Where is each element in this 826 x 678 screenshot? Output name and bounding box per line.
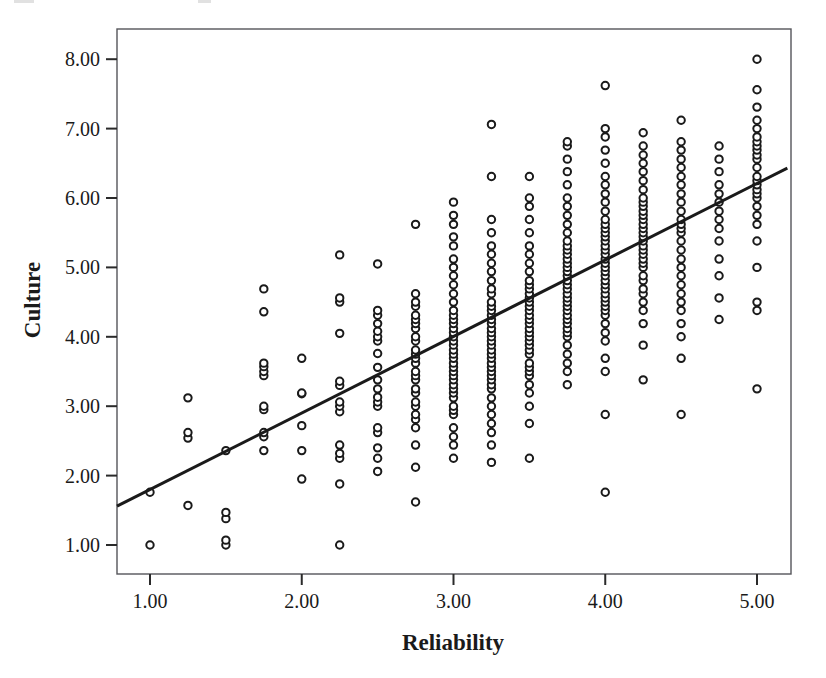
scatter-point: [677, 173, 684, 180]
scatter-point: [602, 337, 609, 344]
scatter-point: [753, 125, 760, 132]
scatter-point: [602, 125, 609, 132]
scatter-point: [564, 155, 571, 162]
scatter-point: [488, 420, 495, 427]
scatter-point: [412, 333, 419, 340]
scatter-point: [412, 464, 419, 471]
scatter-point: [602, 207, 609, 214]
scatter-point: [260, 308, 267, 315]
scatter-point: [298, 475, 305, 482]
scatter-point: [184, 429, 191, 436]
scatter-point: [374, 260, 381, 267]
scatter-point: [753, 86, 760, 93]
scatter-point: [564, 368, 571, 375]
scatter-point: [639, 160, 646, 167]
scatter-point: [336, 330, 343, 337]
scatter-point: [450, 281, 457, 288]
scatter-point: [753, 203, 760, 210]
scatter-point: [412, 312, 419, 319]
scatter-point: [715, 237, 722, 244]
scatter-point: [260, 359, 267, 366]
scatter-point: [564, 181, 571, 188]
scatter-point: [602, 320, 609, 327]
scatter-point: [715, 272, 722, 279]
scatter-point: [677, 320, 684, 327]
scatter-point: [753, 385, 760, 392]
scatter-point: [753, 212, 760, 219]
scatter-point: [602, 133, 609, 140]
scatter-point: [412, 346, 419, 353]
scatter-point: [526, 194, 533, 201]
scatter-point: [602, 160, 609, 167]
scatter-point: [564, 203, 571, 210]
scatter-point: [564, 168, 571, 175]
scatter-point: [753, 237, 760, 244]
scatter-point: [488, 403, 495, 410]
scatter-point: [336, 441, 343, 448]
scatter-point: [715, 216, 722, 223]
scatter-point: [564, 381, 571, 388]
scatter-point: [677, 117, 684, 124]
scatter-point: [526, 359, 533, 366]
scatter-point: [450, 403, 457, 410]
scatter-point: [450, 255, 457, 262]
page-artifact-mark-right: [198, 0, 211, 3]
scatter-point: [488, 429, 495, 436]
scatter-point: [336, 450, 343, 457]
scatter-point: [602, 198, 609, 205]
scatter-point: [450, 221, 457, 228]
scatter-point: [526, 216, 533, 223]
scatter-point: [526, 268, 533, 275]
scatter-point: [526, 229, 533, 236]
x-tick-label: 3.00: [436, 590, 471, 612]
scatter-point: [488, 268, 495, 275]
scatter-point: [374, 468, 381, 475]
scatter-point: [298, 389, 305, 396]
scatter-point: [488, 441, 495, 448]
scatter-point: [374, 424, 381, 431]
scatter-point: [526, 403, 533, 410]
scatter-point: [677, 237, 684, 244]
scatter-point: [677, 333, 684, 340]
scatter-point: [677, 190, 684, 197]
scatter-point: [336, 294, 343, 301]
scatter-point: [450, 272, 457, 279]
scatter-point: [677, 264, 684, 271]
scatter-point: [639, 186, 646, 193]
scatter-point: [488, 173, 495, 180]
scatter-point: [602, 146, 609, 153]
scatter-point: [564, 359, 571, 366]
scatter-point: [564, 194, 571, 201]
scatter-point: [602, 355, 609, 362]
scatter-point: [374, 393, 381, 400]
scatter-point: [450, 455, 457, 462]
scatter-point: [753, 298, 760, 305]
scatter-point: [639, 376, 646, 383]
y-axis-title: Culture: [20, 262, 45, 338]
scatter-point: [564, 212, 571, 219]
scatter-point: [639, 341, 646, 348]
scatter-point: [602, 411, 609, 418]
scatter-point: [222, 536, 229, 543]
scatter-point: [526, 173, 533, 180]
scatter-point: [564, 221, 571, 228]
scatter-point: [450, 242, 457, 249]
scatter-point: [753, 133, 760, 140]
scatter-point: [602, 173, 609, 180]
scatter-point: [412, 221, 419, 228]
scatter-point: [450, 233, 457, 240]
scatter-point: [715, 181, 722, 188]
scatter-point: [753, 117, 760, 124]
scatter-point: [753, 164, 760, 171]
scatter-point: [412, 498, 419, 505]
scatter-point: [677, 198, 684, 205]
scatter-point: [639, 285, 646, 292]
scatter-point: [526, 455, 533, 462]
y-tick-label: 7.00: [65, 118, 100, 140]
scatter-point: [298, 447, 305, 454]
scatter-point: [677, 207, 684, 214]
scatter-point: [526, 242, 533, 249]
scatter-point: [639, 307, 646, 314]
scatter-point: [374, 307, 381, 314]
scatter-point: [677, 281, 684, 288]
